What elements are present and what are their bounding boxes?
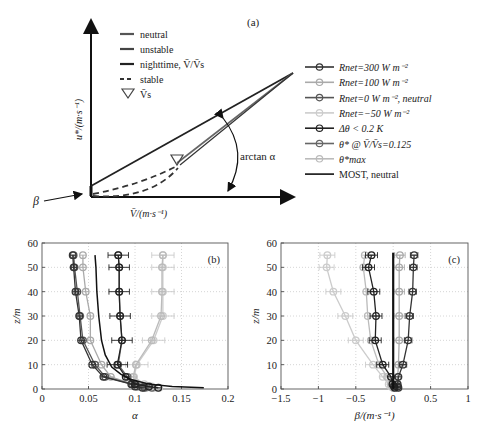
series-legend-label: Δθ < 0.2 K [338,123,385,134]
series-legend-item: Rnet=300 W m⁻² [305,62,409,73]
panel-a-legend: neutralunstablenighttime, V̄/V̄sstableV̄… [120,29,204,100]
legend-a-item: nighttime, V̄/V̄s [120,59,204,70]
x-axis-label: β/(m·s⁻¹) [353,409,394,422]
series-legend-item: Rnet=−50 W m⁻² [305,108,410,119]
x-tick-label: 0 [39,393,44,404]
y-tick-label: 0 [272,384,277,395]
y-tick-label: 30 [267,311,278,322]
beta-arrow [44,194,82,201]
arctan-alpha-label: arctan α [240,150,276,162]
panel-a-diagram: (a) V̄/(m·s⁻¹) u*/(m·s⁻¹) β arctan α neu… [32,16,294,220]
y-tick-label: 30 [28,311,39,322]
panel-a-ylabel: u*/(m·s⁻¹) [73,98,85,140]
legend-a-item: stable [120,74,164,85]
series-legend-item: MOST, neutral [305,169,399,180]
y-tick-label: 40 [267,287,278,298]
series-legend-item: Rnet=0 W m⁻², neutral [305,93,432,104]
x-axis-label: α [132,409,138,421]
legend-a-label: V̄s [140,89,151,100]
x-tick-label: 0 [391,393,396,404]
legend-a-item: V̄s [122,89,151,100]
series-legend-label: Rnet=100 W m⁻² [338,77,409,88]
series-legend: Rnet=300 W m⁻²Rnet=100 W m⁻²Rnet=0 W m⁻²… [305,62,432,180]
legend-a-label: stable [140,74,164,85]
y-tick-label: 0 [33,384,38,395]
y-tick-label: 50 [28,262,39,273]
data-series [126,252,174,391]
y-tick-label: 10 [267,360,278,371]
series-legend-label: Rnet=−50 W m⁻² [338,108,410,119]
data-series [393,252,405,391]
most-neutral-line [95,255,204,388]
y-tick-label: 20 [28,335,39,346]
legend-a-label: nighttime, V̄/V̄s [140,59,204,70]
x-tick-label: 0.15 [172,393,190,404]
figure: (a) V̄/(m·s⁻¹) u*/(m·s⁻¹) β arctan α neu… [0,0,484,433]
x-tick-label: 0.2 [221,393,234,404]
series-legend-label: MOST, neutral [339,169,399,180]
y-tick-label: 60 [28,238,39,249]
x-tick-label: −1 [313,393,324,404]
series-legend-item: θ*max [305,154,366,165]
neutral-line [91,73,293,186]
nighttime-line [180,73,293,165]
series-legend-item: Δθ < 0.2 K [305,123,385,134]
series-legend-label: θ*max [339,154,366,165]
series-legend-label: θ* @ V̄/V̄s=0.125 [339,139,411,150]
y-tick-label: 60 [267,238,278,249]
x-tick-label: 1 [465,393,470,404]
x-tick-label: 0.05 [79,393,97,404]
y-tick-label: 40 [28,287,39,298]
panel-label: (c) [448,254,460,266]
legend-a-label: neutral [140,29,168,40]
x-tick-label: −0.5 [346,393,365,404]
y-tick-label: 20 [267,335,278,346]
y-tick-label: 10 [28,360,39,371]
legend-a-item: neutral [120,29,168,40]
y-axis-label: z/m [249,308,261,324]
y-tick-label: 50 [267,262,278,273]
x-tick-label: 0.5 [424,393,437,404]
data-series [319,252,396,391]
legend-a-item: unstable [120,44,174,55]
panel-a-xlabel: V̄/(m·s⁻¹) [130,208,168,220]
triangle-icon [122,89,134,98]
series-legend-item: θ* @ V̄/V̄s=0.125 [305,139,411,150]
beta-label: β [32,194,39,208]
panel-b-chart: 00.050.10.150.20102030405060αz/m(b) [10,238,235,421]
panel-label: (b) [208,254,221,266]
panel-a-label: (a) [247,16,260,29]
legend-a-label: unstable [140,44,174,55]
series-legend-label: Rnet=0 W m⁻², neutral [338,93,432,104]
panel-c-chart: −1.5−1−0.500.510102030405060β/(m·s⁻¹)z/m… [249,238,471,422]
y-axis-label: z/m [10,308,22,324]
arctan-alpha-arc [223,118,238,191]
series-legend-label: Rnet=300 W m⁻² [338,62,409,73]
series-legend-item: Rnet=100 W m⁻² [305,77,409,88]
x-tick-label: 0.1 [128,393,141,404]
